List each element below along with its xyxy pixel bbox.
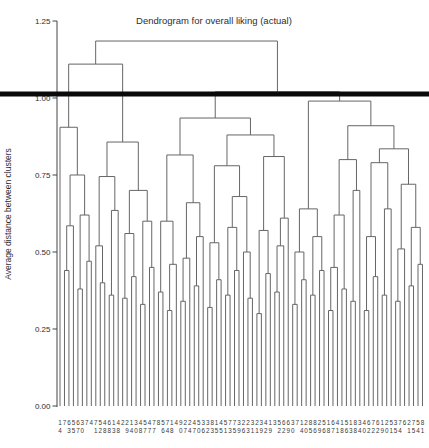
leaf-label-digit: 3 <box>81 419 85 426</box>
leaf-label-digit: 8 <box>327 427 331 434</box>
leaf-label-digit: 1 <box>130 419 134 426</box>
leaf-label-digit: 1 <box>349 419 353 426</box>
threshold-line <box>0 92 429 97</box>
leaf-label-digit: 7 <box>152 427 156 434</box>
leaf-label-digit: 2 <box>407 419 411 426</box>
leaf-label-digit: 4 <box>416 427 420 434</box>
leaf-label-digit: 0 <box>197 427 201 434</box>
leaf-label-digit: 5 <box>389 419 393 426</box>
leaf-label-digit: 7 <box>192 427 196 434</box>
leaf-label-digit: 5 <box>233 427 237 434</box>
leaf-label-digit: 7 <box>94 419 98 426</box>
leaf-label-digit: 2 <box>278 427 282 434</box>
leaf-label-digit: 7 <box>228 419 232 426</box>
leaf-label-digit: 1 <box>215 419 219 426</box>
leaf-label-digit: 3 <box>134 419 138 426</box>
leaf-label-digit: 1 <box>327 419 331 426</box>
leaf-label-digit: 6 <box>282 419 286 426</box>
leaf-label-digit: 2 <box>206 427 210 434</box>
leaf-label-digit: 1 <box>269 419 273 426</box>
leaf-label-digit: 4 <box>58 427 62 434</box>
leaf-label-digit: 4 <box>192 419 196 426</box>
leaf-label-digit: 1 <box>340 419 344 426</box>
leaf-label-digit: 2 <box>246 419 250 426</box>
leaf-label-digit: 1 <box>389 427 393 434</box>
leaf-label-digit: 6 <box>76 419 80 426</box>
leaf-label-digit: 1 <box>58 419 62 426</box>
leaf-label-digit: 6 <box>331 419 335 426</box>
leaf-label-digit: 8 <box>309 419 313 426</box>
leaf-label-digit: 7 <box>184 427 188 434</box>
leaf-label-digit: 3 <box>210 427 214 434</box>
leaf-label-digit: 6 <box>286 419 290 426</box>
leaf-label-digit: 4 <box>103 419 107 426</box>
y-tick-label: 0.50 <box>35 248 51 257</box>
leaf-label-digit: 4 <box>90 419 94 426</box>
leaf-label-digit: 7 <box>63 419 67 426</box>
leaf-label-digit: 4 <box>188 427 192 434</box>
leaf-label-digit: 1 <box>94 427 98 434</box>
leaf-label-digit: 5 <box>219 427 223 434</box>
leaf-label-digit: 0 <box>291 427 295 434</box>
leaf-label-digit: 9 <box>318 427 322 434</box>
leaf-label-digit: 4 <box>264 419 268 426</box>
leaf-label-digit: 7 <box>398 419 402 426</box>
leaf-label-digit: 5 <box>99 419 103 426</box>
leaf-label-digit: 5 <box>224 419 228 426</box>
leaf-label-digit: 3 <box>260 419 264 426</box>
leaf-label-digit: 2 <box>255 419 259 426</box>
leaf-label-digit: 2 <box>367 427 371 434</box>
leaf-label-digit: 7 <box>331 427 335 434</box>
leaf-label-digit: 6 <box>107 419 111 426</box>
leaf-label-digit: 4 <box>175 419 179 426</box>
leaf-label-digit: 3 <box>273 419 277 426</box>
leaf-label-digit: 8 <box>340 427 344 434</box>
leaf-label-digit: 5 <box>161 419 165 426</box>
leaf-label-digit: 9 <box>260 427 264 434</box>
leaf-label-digit: 5 <box>197 419 201 426</box>
leaf-label-digit: 5 <box>215 427 219 434</box>
leaf-label-digit: 1 <box>255 427 259 434</box>
leaf-label-digit: 5 <box>278 419 282 426</box>
chart-title: Dendrogram for overall liking (actual) <box>136 15 292 26</box>
y-tick-label: 1.25 <box>35 17 51 26</box>
leaf-label-digit: 3 <box>206 419 210 426</box>
leaf-label-digit: 3 <box>246 427 250 434</box>
leaf-label-digit: 8 <box>107 427 111 434</box>
leaf-label-digit: 1 <box>170 419 174 426</box>
leaf-label-digit: 2 <box>304 419 308 426</box>
leaf-label-digit: 1 <box>224 427 228 434</box>
leaf-label-digit: 4 <box>358 427 362 434</box>
leaf-label-digit: 2 <box>264 427 268 434</box>
leaf-label-digit: 2 <box>188 419 192 426</box>
leaf-label-digit: 2 <box>376 427 380 434</box>
leaf-label-digit: 5 <box>72 419 76 426</box>
leaf-label-digit: 6 <box>67 419 71 426</box>
leaf-label-digit: 8 <box>421 419 425 426</box>
leaf-label-digit: 5 <box>394 427 398 434</box>
leaf-label-digit: 4 <box>219 419 223 426</box>
leaf-label-digit: 4 <box>398 427 402 434</box>
dendrogram-marks: 0.000.250.500.751.001.251476355673074715… <box>0 17 429 434</box>
leaf-label-digit: 1 <box>380 419 384 426</box>
leaf-label-digit: 0 <box>385 427 389 434</box>
leaf-label-digit: 4 <box>336 419 340 426</box>
chart-container: 0.000.250.500.751.001.251476355673074715… <box>0 0 429 448</box>
leaf-label-digit: 6 <box>242 427 246 434</box>
leaf-label-digit: 7 <box>152 419 156 426</box>
leaf-label-digit: 8 <box>103 427 107 434</box>
leaf-label-digit: 8 <box>170 427 174 434</box>
leaf-label-digit: 0 <box>304 427 308 434</box>
y-tick-label: 0.25 <box>35 325 51 334</box>
leaf-label-digit: 3 <box>251 419 255 426</box>
leaf-label-digit: 2 <box>125 419 129 426</box>
leaf-label-digit: 8 <box>354 419 358 426</box>
leaf-label-digit: 5 <box>416 419 420 426</box>
leaf-label-digit: 9 <box>125 427 129 434</box>
leaf-label-digit: 1 <box>407 427 411 434</box>
leaf-label-digit: 9 <box>380 427 384 434</box>
leaf-label-digit: 5 <box>143 419 147 426</box>
leaf-label-digit: 3 <box>201 419 205 426</box>
leaf-label-digit: 3 <box>112 427 116 434</box>
leaf-label-digit: 1 <box>300 419 304 426</box>
